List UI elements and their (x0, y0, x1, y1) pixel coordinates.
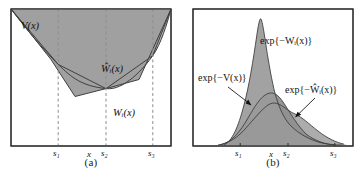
panel-b: exp{−Wᵢ(x)} exp{−V(x)} exp{−Ŵᵢ(x)} s₁ x… (182, 0, 364, 183)
label-W-hat: Ŵᵢ(x) (101, 63, 123, 74)
panel-b-caption: (b) (182, 156, 364, 168)
label-V: V(x) (21, 20, 39, 31)
label-W: Wᵢ(x) (113, 107, 135, 118)
panel-a: V(x) Ŵᵢ(x) Wᵢ(x) s₁ x s₂ s₃ (a) (0, 0, 182, 183)
panel-a-caption: (a) (0, 156, 182, 168)
label-exp-neg-W: exp{−Wᵢ(x)} (260, 35, 312, 46)
label-exp-neg-V: exp{−V(x)} (198, 72, 247, 83)
label-exp-neg-W-hat: exp{−Ŵᵢ(x)} (285, 84, 337, 95)
figure: V(x) Ŵᵢ(x) Wᵢ(x) s₁ x s₂ s₃ (a) (0, 0, 364, 183)
